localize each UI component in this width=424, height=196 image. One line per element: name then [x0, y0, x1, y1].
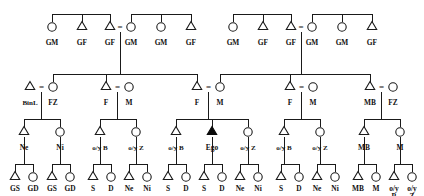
person-symbol-male [88, 172, 97, 180]
person-symbol-male [367, 22, 376, 30]
mating-equals: = [115, 82, 120, 92]
person-symbol-male [258, 22, 267, 30]
person-symbol-female [309, 83, 317, 91]
person-symbol-female [218, 173, 226, 181]
person-label: Ne [125, 184, 134, 193]
person-label: o/y B [92, 144, 108, 152]
person-label: M [310, 98, 317, 107]
person-symbol-male [95, 127, 104, 135]
person-label: F [104, 98, 109, 107]
person-symbol-female [29, 173, 37, 181]
person-label: GS [10, 184, 20, 193]
person-symbol-female [331, 173, 339, 181]
person-label: Ne [313, 184, 322, 193]
person-label: GS [47, 184, 57, 193]
pedigree-canvas: ======= GMGFGFGMGMGFGMGFGFGMGMGFBinLFZFM… [0, 0, 424, 196]
person-symbol-female [182, 173, 190, 181]
person-symbol-female [396, 128, 404, 136]
person-label: GM [306, 38, 319, 47]
person-label: o/y B [168, 144, 184, 152]
person-symbol-female [229, 23, 237, 31]
person-symbol-female [295, 173, 303, 181]
person-symbol-female [338, 23, 346, 31]
person-symbol-female [308, 23, 316, 31]
person-label: MB [364, 98, 376, 107]
person-label: GM [227, 38, 240, 47]
person-symbol-male [199, 172, 208, 180]
person-label: Ego [206, 143, 219, 152]
person-label: FZ [48, 98, 58, 107]
person-label: o/y Z [312, 144, 328, 152]
person-label: GM [155, 38, 168, 47]
person-label: GF [186, 38, 197, 47]
person-label: GF [77, 38, 88, 47]
person-symbol-male [101, 82, 110, 90]
person-label: F [288, 98, 293, 107]
person-symbol-male [77, 22, 86, 30]
person-label: Ne [20, 143, 29, 152]
person-symbol-male [186, 22, 195, 30]
mating-equals: = [379, 82, 384, 92]
person-label: Ne [236, 184, 245, 193]
person-label: D [108, 184, 113, 193]
person-symbol-male [10, 172, 19, 180]
person-symbol-male [163, 172, 172, 180]
person-label: S [166, 184, 170, 193]
person-symbol-male [365, 82, 374, 90]
person-symbol-male [279, 127, 288, 135]
person-symbol-female [157, 23, 165, 31]
person-symbol-male [389, 172, 398, 180]
person-label: o/y Z [128, 144, 144, 152]
person-symbol-male [25, 82, 34, 90]
person-label: Ni [331, 184, 338, 193]
mating-equals: = [299, 82, 304, 92]
mating-equals: = [298, 22, 303, 32]
person-symbol-male [105, 22, 114, 30]
person-label: D [219, 184, 224, 193]
person-label: GF [367, 38, 378, 47]
mating-equals-signs: ======= [39, 22, 384, 92]
person-symbol-female [372, 173, 380, 181]
person-label: M [397, 143, 404, 152]
person-label-line2: B [392, 192, 397, 196]
person-label: GF [286, 38, 297, 47]
person-symbol-female [216, 83, 224, 91]
pedigree-chart: ======= GMGFGFGMGMGFGMGFGFGMGMGFBinLFZFM… [0, 0, 424, 196]
person-label: M [126, 98, 133, 107]
person-symbol-female [127, 23, 135, 31]
person-symbol-male [276, 172, 285, 180]
person-label: M [373, 184, 380, 193]
person-label: GM [46, 38, 59, 47]
person-symbol-male [353, 172, 362, 180]
person-symbol-female [408, 173, 416, 181]
mating-equals: = [117, 22, 122, 32]
person-symbol-female [125, 83, 133, 91]
person-symbol-female [132, 128, 140, 136]
person-label: GF [105, 38, 116, 47]
person-symbol-female [107, 173, 115, 181]
person-symbol-female [66, 173, 74, 181]
person-symbol-male [312, 172, 321, 180]
person-label: MB [352, 184, 364, 193]
person-label: FZ [388, 98, 398, 107]
person-symbol-male [19, 127, 28, 135]
person-symbol-male [235, 172, 244, 180]
person-symbol-male [359, 127, 368, 135]
person-symbol-female [49, 83, 57, 91]
person-label: Ni [143, 184, 150, 193]
person-label: GM [125, 38, 138, 47]
person-labels: GMGFGFGMGMGFGMGFGFGMGMGFBinLFZFMFMFMMBFZ… [10, 38, 417, 196]
person-symbol-male [192, 82, 201, 90]
person-label-line2: Z [410, 192, 415, 196]
person-label: Ni [56, 143, 63, 152]
person-label: F [195, 98, 200, 107]
person-symbol-male [286, 22, 295, 30]
person-symbol-female [316, 128, 324, 136]
person-symbol-male [124, 172, 133, 180]
person-label: GF [258, 38, 269, 47]
person-label: MB [358, 143, 370, 152]
person-label: S [91, 184, 95, 193]
person-label: Ni [254, 184, 261, 193]
person-symbol-male [285, 82, 294, 90]
person-label: S [279, 184, 283, 193]
